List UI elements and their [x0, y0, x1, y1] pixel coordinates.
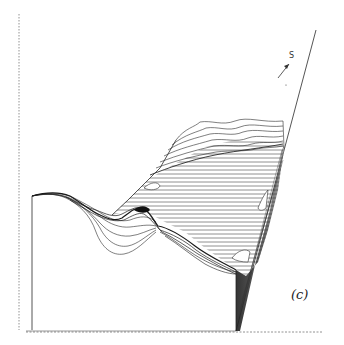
hill-profiles	[32, 194, 156, 255]
block-outline	[32, 30, 316, 331]
panel-label: (c)	[291, 287, 308, 302]
bottom-axis	[26, 331, 322, 332]
block-diagram-figure: S (c)	[0, 0, 344, 345]
south-arrow-icon	[278, 64, 289, 86]
front-profile-band	[32, 193, 236, 274]
ridge-profiles	[150, 119, 284, 175]
direction-label: S	[289, 51, 294, 60]
side-face-lines	[238, 150, 283, 320]
dark-knob	[134, 206, 150, 212]
plateau-left-edge	[112, 140, 176, 215]
